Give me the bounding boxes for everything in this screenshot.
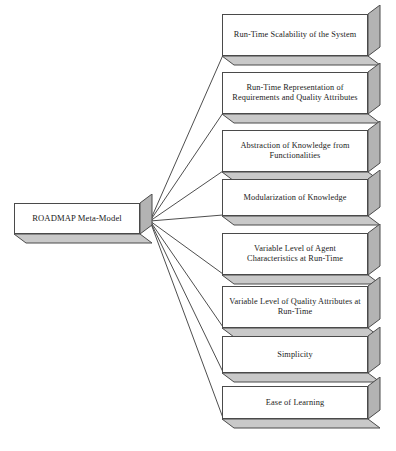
node-label: Run-Time Representation of Requirements … — [223, 83, 367, 103]
node-label: Run-Time Scalability of the System — [228, 30, 362, 40]
node-label: ROADMAP Meta-Model — [26, 213, 128, 223]
node-label: Ease of Learning — [260, 398, 330, 408]
node-label: Modularization of Knowledge — [237, 193, 352, 203]
node-front-face: Run-Time Scalability of the System — [222, 14, 368, 56]
node-abstraction-of-knowledge[interactable]: Abstraction of Knowledge from Functional… — [222, 130, 368, 172]
node-front-face: Simplicity — [222, 336, 368, 373]
node-label: Abstraction of Knowledge from Functional… — [223, 141, 367, 161]
node-front-face: Variable Level of Quality Attributes at … — [222, 286, 368, 328]
node-label: Variable Level of Quality Attributes at … — [223, 297, 367, 317]
node-label: Simplicity — [271, 350, 319, 360]
node-roadmap-meta-model[interactable]: ROADMAP Meta-Model — [14, 203, 140, 234]
node-variable-level-agent[interactable]: Variable Level of Agent Characteristics … — [222, 233, 368, 275]
node-front-face: Abstraction of Knowledge from Functional… — [222, 130, 368, 172]
roadmap-meta-model-diagram: ROADMAP Meta-ModelRun-Time Scalability o… — [0, 0, 396, 451]
node-front-face: Variable Level of Agent Characteristics … — [222, 233, 368, 275]
node-variable-level-quality[interactable]: Variable Level of Quality Attributes at … — [222, 286, 368, 328]
connector-to-modularization-of-knowledge — [150, 215, 223, 221]
connector-to-variable-level-agent — [150, 221, 223, 274]
connector-to-ease-of-learning — [150, 221, 223, 418]
node-front-face: Run-Time Representation of Requirements … — [222, 72, 368, 114]
node-modularization-of-knowledge[interactable]: Modularization of Knowledge — [222, 179, 368, 216]
node-label: Variable Level of Agent Characteristics … — [223, 244, 367, 264]
node-run-time-representation[interactable]: Run-Time Representation of Requirements … — [222, 72, 368, 114]
node-ease-of-learning[interactable]: Ease of Learning — [222, 386, 368, 419]
node-front-face: ROADMAP Meta-Model — [14, 203, 140, 234]
node-run-time-scalability[interactable]: Run-Time Scalability of the System — [222, 14, 368, 56]
node-front-face: Modularization of Knowledge — [222, 179, 368, 216]
connector-to-run-time-representation — [150, 113, 223, 221]
connector-to-variable-level-quality — [150, 221, 223, 327]
node-simplicity[interactable]: Simplicity — [222, 336, 368, 373]
node-front-face: Ease of Learning — [222, 386, 368, 419]
connector-to-simplicity — [150, 221, 223, 372]
